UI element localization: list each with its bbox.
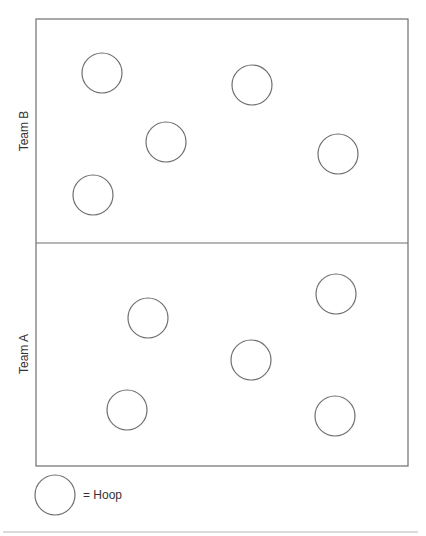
team-a-hoops [107,274,356,436]
hoop-diagram: Team B Team A = Hoop [0,0,426,536]
hoop-icon [73,175,113,215]
hoop-icon [318,134,358,174]
zone-label-team-b: Team B [17,111,31,152]
hoop-icon [315,396,355,436]
hoop-icon [232,65,272,105]
hoop-icon [82,53,122,93]
hoop-icon [316,274,356,314]
zone-label-team-a: Team A [17,334,31,374]
hoop-icon [107,390,147,430]
legend-hoop-icon [35,475,75,515]
legend: = Hoop [35,475,122,515]
hoop-icon [146,122,186,162]
hoop-icon [231,340,271,380]
team-b-hoops [73,53,358,215]
hoop-icon [128,298,168,338]
legend-text: = Hoop [83,488,122,502]
